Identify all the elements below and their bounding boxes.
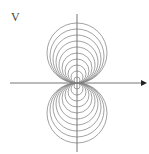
arrow-right-icon xyxy=(141,80,147,86)
tangent-circles-diagram xyxy=(0,0,149,154)
